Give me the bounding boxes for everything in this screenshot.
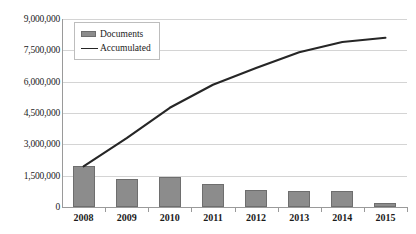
legend-label-documents: Documents: [100, 29, 143, 39]
legend-label-accumulated: Accumulated: [100, 43, 151, 53]
y-axis-tick-label: 4,500,000: [0, 108, 60, 118]
y-axis-tick-label: 9,000,000: [0, 14, 60, 24]
y-axis-tick-label: 0: [0, 202, 60, 212]
x-axis-label-2015: 2015: [355, 212, 415, 223]
y-axis-tick-label: 1,500,000: [0, 171, 60, 181]
y-axis-tick-label: 7,500,000: [0, 45, 60, 55]
y-axis-tick-label: 3,000,000: [0, 139, 60, 149]
bar-swatch-icon: [81, 31, 96, 37]
chart-container: 01,500,0003,000,0004,500,0006,000,0007,5…: [0, 0, 416, 234]
line-swatch-icon: [81, 48, 98, 49]
legend-item-accumulated: Accumulated: [81, 41, 154, 55]
y-axis-tick-label: 6,000,000: [0, 77, 60, 87]
legend-item-documents: Documents: [81, 27, 154, 41]
chart-legend: Documents Accumulated: [74, 22, 160, 60]
